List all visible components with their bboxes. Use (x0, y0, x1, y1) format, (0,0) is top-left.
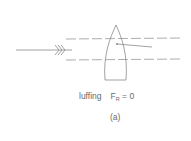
state-label: luffing (79, 91, 102, 101)
mast-icon (116, 43, 118, 45)
force-caption: luffingFR = 0 (79, 91, 134, 102)
sail (116, 43, 152, 47)
streamline-upper (66, 38, 183, 39)
wind-arrow-icon (16, 45, 72, 55)
diagram-canvas (0, 0, 191, 141)
panel-label: (a) (110, 112, 120, 122)
force-label: FR = 0 (111, 91, 135, 101)
boat-hull (105, 25, 127, 80)
streamline-lower (66, 59, 182, 60)
